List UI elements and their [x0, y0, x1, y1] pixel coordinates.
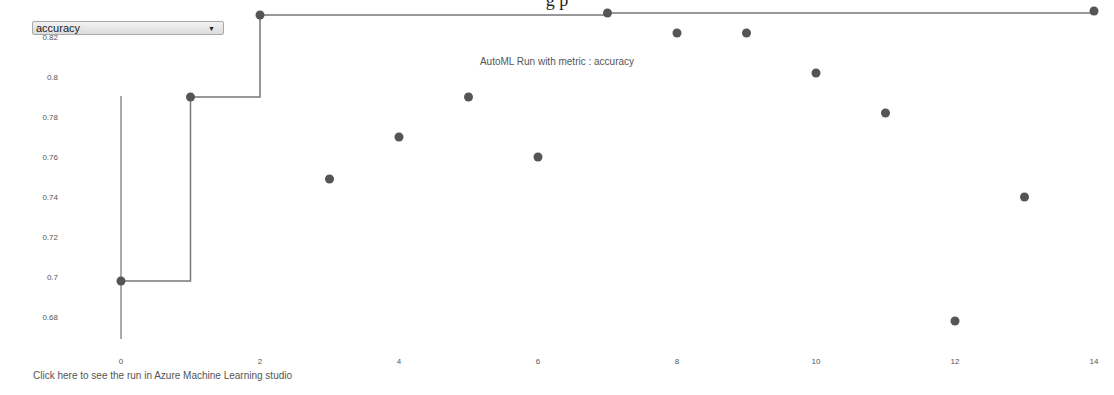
y-tick-label: 0.72	[42, 233, 58, 242]
data-point	[881, 109, 890, 118]
data-point	[603, 9, 612, 18]
x-tick-label: 0	[119, 357, 124, 366]
y-tick-label: 0.84	[42, 0, 58, 2]
data-point	[325, 175, 334, 184]
x-tick-label: 6	[536, 357, 541, 366]
x-tick-label: 10	[812, 357, 821, 366]
data-point	[1020, 193, 1029, 202]
y-tick-label: 0.8	[47, 73, 59, 82]
y-tick-label: 0.7	[47, 273, 59, 282]
data-point	[951, 317, 960, 326]
x-tick-label: 8	[675, 357, 680, 366]
y-tick-label: 0.68	[42, 313, 58, 322]
y-tick-label: 0.82	[42, 33, 58, 42]
data-point	[464, 93, 473, 102]
data-point	[186, 93, 195, 102]
data-point	[742, 29, 751, 38]
y-tick-label: 0.76	[42, 153, 58, 162]
y-tick-label: 0.78	[42, 113, 58, 122]
data-point	[117, 277, 126, 286]
x-tick-label: 4	[397, 357, 402, 366]
x-tick-label: 2	[258, 357, 263, 366]
data-point	[1090, 7, 1099, 16]
best-so-far-step-line	[121, 11, 1094, 281]
data-point	[673, 29, 682, 38]
data-point	[812, 69, 821, 78]
x-tick-label: 12	[951, 357, 960, 366]
y-tick-label: 0.74	[42, 193, 58, 202]
azure-ml-studio-link[interactable]: Click here to see the run in Azure Machi…	[33, 370, 292, 381]
x-tick-label: 14	[1090, 357, 1099, 366]
data-point	[534, 153, 543, 162]
data-point	[395, 133, 404, 142]
data-point	[256, 11, 265, 20]
accuracy-scatter-chart: 0.680.70.720.740.760.780.80.820.84024681…	[0, 0, 1114, 395]
